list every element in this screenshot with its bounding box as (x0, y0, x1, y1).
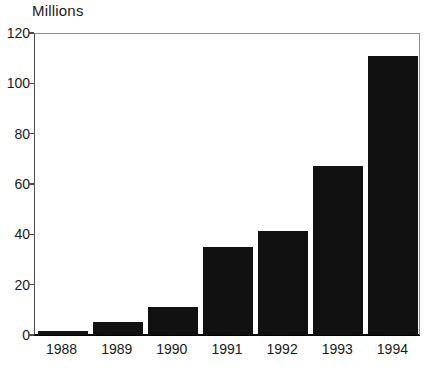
x-tick-label: 1989 (89, 341, 144, 357)
y-tick-label: 120 (2, 25, 30, 41)
y-tick-label: 80 (2, 126, 30, 142)
y-tick-label: 0 (2, 327, 30, 343)
y-tick-label: 40 (2, 226, 30, 242)
bar-1988 (38, 331, 88, 335)
bars-layer (34, 33, 420, 335)
x-tick-label: 1990 (144, 341, 199, 357)
x-tick-label: 1988 (34, 341, 89, 357)
bar-1990 (148, 307, 198, 335)
bar-1991 (203, 247, 253, 335)
chart-page: Millions 020406080100120 198819891990199… (0, 0, 433, 368)
x-axis: 1988198919901991199219931994 (34, 341, 420, 363)
x-tick-label: 1992 (255, 341, 310, 357)
x-tick-label: 1994 (365, 341, 420, 357)
x-tick-label: 1993 (310, 341, 365, 357)
bar-1994 (368, 56, 418, 335)
y-tick-label: 100 (2, 75, 30, 91)
bar-1993 (313, 166, 363, 335)
y-tick-label: 60 (2, 176, 30, 192)
bar-1992 (258, 231, 308, 335)
y-tick-label: 20 (2, 277, 30, 293)
x-tick-label: 1991 (199, 341, 254, 357)
bar-1989 (93, 322, 143, 335)
y-axis: 020406080100120 (0, 0, 30, 368)
chart-title: Millions (32, 2, 84, 19)
